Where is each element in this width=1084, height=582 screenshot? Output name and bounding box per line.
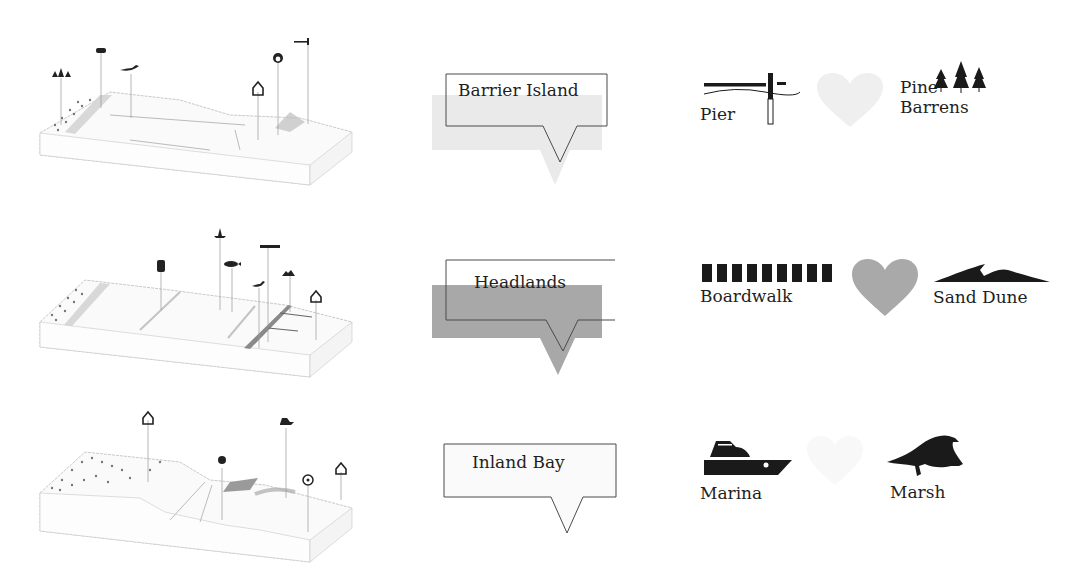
bubble-shadow [432,95,602,185]
bird-icon [885,432,970,482]
boardwalk-icon [700,260,840,282]
legend-label: Sand Dune [933,287,1028,307]
region-bubble-inland-bay: Inland Bay [440,440,620,550]
landscape-inland-bay [0,390,380,582]
region-bubble-barrier-island: Barrier Island [430,70,615,190]
legend-label: Pier [700,104,735,124]
landscape-barrier-island [0,0,380,200]
region-bubble-headlands: Headlands [430,258,615,383]
legend-boardwalk: Boardwalk [700,260,840,320]
region-title: Barrier Island [458,80,579,100]
region-title: Inland Bay [472,452,565,472]
legend-heart-inland-bay [805,435,865,490]
bubble-shadow [432,285,602,375]
heart-icon [850,258,920,320]
legend-label-line2: Barrens [900,97,969,117]
row-barrier-island: Barrier Island Pier Pine Barrens [0,0,1084,195]
legend-heart-barrier-island [815,72,885,132]
legend-pine-barrens: Pine Barrens [900,55,1040,135]
sand-dune-icon [930,258,1055,288]
pine-trees-icon [932,55,992,100]
legend-label: Marsh [890,482,945,502]
row-headlands: Headlands Boardwalk Sand Dune [0,210,1084,390]
legend-marina: Marina [700,435,800,515]
landscape-headlands [0,210,380,410]
legend-pier: Pier [700,70,800,130]
legend-sand-dune: Sand Dune [930,258,1060,323]
legend-label: Marina [700,483,762,503]
legend-heart-headlands [850,258,920,320]
row-inland-bay: Inland Bay Marina Marsh [0,390,1084,582]
legend-marsh: Marsh [885,432,985,517]
legend-label: Boardwalk [700,286,792,306]
heart-icon [805,435,865,490]
heart-icon [815,72,885,132]
region-title: Headlands [474,272,566,292]
boat-icon [700,435,795,480]
